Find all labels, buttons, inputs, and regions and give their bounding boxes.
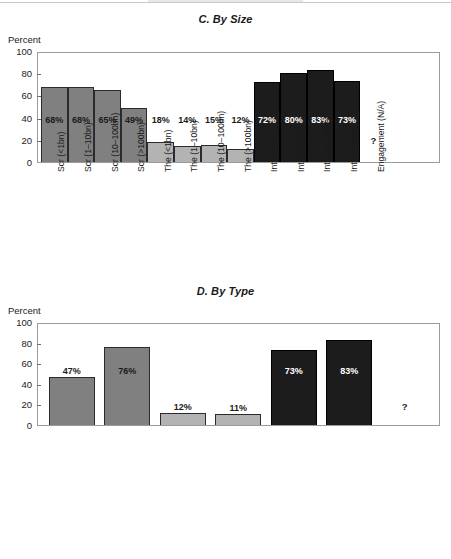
category-label: Scr (<1bn): [57, 132, 66, 172]
chart-panel-by-size: C. By Size Percent 68%68%65%49%18%14%15%…: [0, 0, 451, 272]
bar-value-label: 72%: [254, 116, 281, 125]
y-tick-mark: [37, 385, 41, 386]
bar: [160, 413, 206, 425]
chart-c-title: C. By Size: [0, 13, 451, 25]
y-tick-label: 0: [8, 421, 32, 431]
chart-d-title: D. By Type: [0, 285, 451, 297]
category-label: Engagement (N/A): [377, 101, 386, 172]
bar-value-label: 80%: [280, 116, 307, 125]
bar: [104, 347, 150, 425]
chart-d-y-axis-caption: Percent: [8, 305, 41, 316]
category-label: Scr (1–10bn): [84, 122, 93, 172]
chart-d-bars-layer: 47%76%12%11%73%83%?: [38, 324, 439, 425]
bar-value-label: 68%: [41, 116, 68, 125]
category-label: The (<1bn): [164, 130, 173, 172]
y-tick-label: 0: [8, 158, 32, 168]
bar: [326, 340, 372, 425]
y-tick-mark: [37, 74, 41, 75]
unknown-value-marker: ?: [385, 401, 425, 412]
category-label: Int (<1bn): [270, 135, 279, 172]
bar-value-label: 73%: [266, 367, 322, 376]
bar: [271, 350, 317, 425]
chart-panel-by-type: D. By Type Percent 47%76%12%11%73%83%? 1…: [0, 272, 451, 559]
bar-value-label: 76%: [100, 367, 156, 376]
bar-value-label: 18%: [147, 116, 174, 125]
category-label: Scr (10–100bn): [111, 113, 120, 172]
category-label: Int (10–100bn): [323, 116, 332, 172]
y-tick-mark: [37, 141, 41, 142]
y-tick-label: 60: [8, 359, 32, 369]
category-label: The (>100bn): [244, 120, 253, 172]
chart-d-plot-area: 47%76%12%11%73%83%?: [37, 323, 440, 426]
bar-value-label: 12%: [155, 403, 211, 412]
bar-value-label: 73%: [334, 116, 361, 125]
y-tick-label: 80: [8, 339, 32, 349]
chart-c-y-axis-caption: Percent: [8, 34, 41, 45]
bar-value-label: 83%: [322, 367, 378, 376]
y-tick-label: 40: [8, 380, 32, 390]
category-label: Int (>100bn): [350, 125, 359, 172]
y-tick-mark: [37, 96, 41, 97]
y-tick-mark: [37, 405, 41, 406]
y-tick-label: 100: [8, 47, 32, 57]
y-tick-label: 20: [8, 136, 32, 146]
bar: [215, 414, 261, 425]
y-tick-label: 20: [8, 400, 32, 410]
y-tick-label: 40: [8, 114, 32, 124]
y-tick-label: 80: [8, 69, 32, 79]
unknown-value-marker: ?: [354, 135, 394, 146]
bar: [49, 377, 95, 425]
category-label: The (1–10bn): [190, 120, 199, 172]
y-tick-mark: [37, 364, 41, 365]
y-tick-label: 100: [8, 318, 32, 328]
y-tick-mark: [37, 119, 41, 120]
bar-value-label: 11%: [211, 404, 267, 413]
y-tick-mark: [37, 344, 41, 345]
category-label: The (10–100bn): [217, 111, 226, 172]
bar-value-label: 47%: [44, 367, 100, 376]
y-tick-label: 60: [8, 91, 32, 101]
category-label: Int (1–10bn): [297, 126, 306, 172]
category-label: Scr (>100bn): [137, 122, 146, 172]
